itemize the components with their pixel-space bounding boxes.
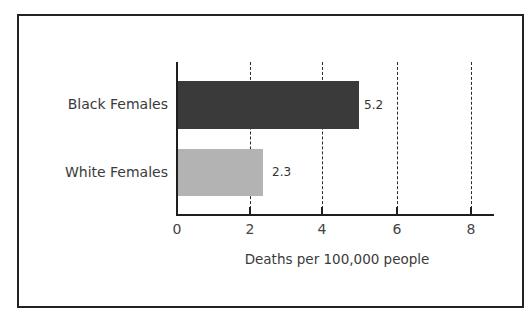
gridline-6	[397, 62, 398, 214]
category-label-white-females: White Females	[65, 164, 168, 180]
y-axis-line	[176, 62, 178, 216]
bar-black-females	[178, 81, 359, 129]
x-tick-2	[249, 207, 251, 215]
x-tick-label: 6	[382, 221, 412, 237]
x-tick-label: 0	[162, 221, 192, 237]
bar-chart: 0 2 4 6 8 Black Females White Females 5.…	[0, 0, 532, 324]
x-tick-4	[321, 207, 323, 215]
value-label-black-females: 5.2	[364, 98, 383, 112]
x-tick-label: 4	[307, 221, 337, 237]
x-tick-8	[470, 207, 472, 215]
category-label-black-females: Black Females	[68, 96, 168, 112]
gridline-8	[471, 62, 472, 214]
x-tick-label: 2	[235, 221, 265, 237]
value-label-white-females: 2.3	[272, 165, 291, 179]
x-tick-label: 8	[456, 221, 486, 237]
bar-white-females	[178, 149, 263, 196]
x-axis-title: Deaths per 100,000 people	[180, 251, 494, 267]
x-tick-6	[396, 207, 398, 215]
x-axis-line	[176, 214, 494, 216]
